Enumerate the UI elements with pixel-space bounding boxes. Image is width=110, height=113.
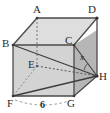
dimension-label-6: 6 (40, 99, 45, 110)
vertex-label-F: F (7, 97, 13, 109)
angle-label-x: x (79, 52, 84, 62)
cube-diagram-svg: A B C D E F G H x 6 (0, 0, 110, 113)
geometry-figure: A B C D E F G H x 6 (0, 0, 110, 113)
vertex-dot-D (95, 16, 98, 19)
vertex-dot-B (12, 44, 15, 47)
vertex-dot-E (36, 65, 38, 67)
vertex-label-E: E (28, 58, 35, 70)
vertex-label-B: B (2, 37, 9, 49)
vertex-label-G: G (67, 97, 75, 109)
vertex-label-C: C (65, 34, 72, 46)
vertex-dot-C (73, 44, 76, 47)
vertex-label-H: H (99, 70, 107, 82)
vertex-dot-A (36, 17, 39, 20)
vertex-label-D: D (88, 3, 96, 15)
vertex-label-A: A (33, 3, 41, 15)
